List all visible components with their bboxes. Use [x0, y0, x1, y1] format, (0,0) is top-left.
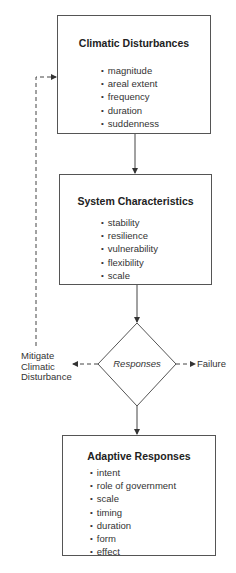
list-item: duration: [90, 520, 176, 533]
list-item: flexibility: [101, 257, 158, 270]
mitigate-line: Disturbance: [21, 372, 72, 383]
list-item: intent: [90, 467, 176, 480]
system-characteristics-title: System Characteristics: [60, 195, 211, 207]
climatic-disturbances-list: magnitude areal extent frequency duratio…: [101, 65, 159, 131]
system-characteristics-box: System Characteristics stability resilie…: [59, 174, 212, 285]
list-item: effect: [90, 546, 176, 559]
list-item: magnitude: [101, 65, 159, 78]
climatic-disturbances-box: Climatic Disturbances magnitude areal ex…: [57, 15, 211, 134]
responses-label: Responses: [98, 358, 176, 369]
list-item: duration: [101, 105, 159, 118]
list-item: scale: [101, 270, 158, 283]
list-item: suddenness: [101, 118, 159, 131]
adaptive-responses-title: Adaptive Responses: [63, 450, 215, 462]
list-item: areal extent: [101, 78, 159, 91]
failure-label: Failure: [197, 359, 226, 370]
feedback-loop-mitigate-to-disturbances: [36, 77, 56, 346]
list-item: vulnerability: [101, 243, 158, 256]
adaptive-responses-list: intent role of government scale timing d…: [90, 467, 176, 559]
list-item: role of government: [90, 480, 176, 493]
list-item: form: [90, 533, 176, 546]
list-item: scale: [90, 493, 176, 506]
list-item: frequency: [101, 91, 159, 104]
mitigate-climatic-disturbance-label: Mitigate Climatic Disturbance: [21, 351, 72, 383]
list-item: timing: [90, 507, 176, 520]
climatic-disturbances-title: Climatic Disturbances: [58, 37, 210, 49]
mitigate-line: Mitigate: [21, 351, 72, 362]
list-item: resilience: [101, 230, 158, 243]
list-item: stability: [101, 217, 158, 230]
adaptive-responses-box: Adaptive Responses intent role of govern…: [62, 435, 216, 556]
system-characteristics-list: stability resilience vulnerability flexi…: [101, 217, 158, 283]
